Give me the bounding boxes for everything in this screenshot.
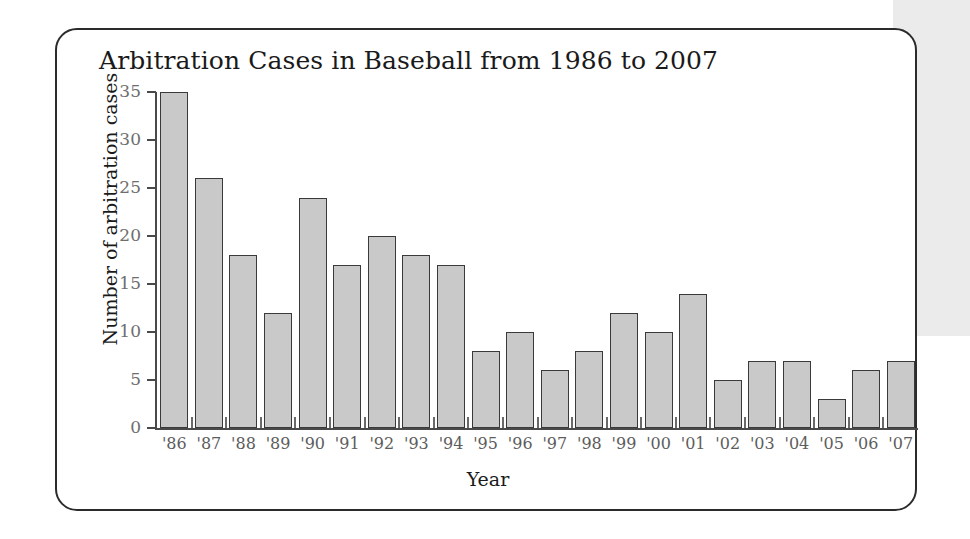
bar[interactable] [437,265,465,428]
x-axis-minor-tick [433,417,435,428]
bar-slot [333,92,361,428]
y-axis-tick [147,283,156,285]
figure-card: Arbitration Cases in Baseball from 1986 … [55,28,917,511]
bar-slot [195,92,223,428]
y-axis-tick [147,235,156,237]
bar[interactable] [402,255,430,428]
bar-slot [610,92,638,428]
bar[interactable] [299,198,327,428]
y-axis-tick [147,331,156,333]
y-axis-tick-label: 15 [101,275,141,292]
bar[interactable] [264,313,292,428]
bar[interactable] [160,92,188,428]
y-axis-tick [147,91,156,93]
y-axis-tick [147,427,156,429]
chart-page: Arbitration Cases in Baseball from 1986 … [0,0,970,539]
bar-slot [679,92,707,428]
x-axis-minor-tick [191,417,193,428]
y-axis-tick-label: 0 [101,419,141,436]
y-axis-tick-label: 30 [101,131,141,148]
x-axis-minor-tick [502,417,504,428]
bar[interactable] [679,294,707,428]
bar[interactable] [645,332,673,428]
y-axis-tick-label: 35 [101,83,141,100]
x-axis-minor-tick [675,417,677,428]
bar-slot [818,92,846,428]
bar[interactable] [818,399,846,428]
bar[interactable] [852,370,880,428]
bar[interactable] [714,380,742,428]
bar-slot [506,92,534,428]
y-axis-tick [147,139,156,141]
y-axis-tick [147,379,156,381]
x-axis-minor-tick [571,417,573,428]
x-axis-minor-tick [882,417,884,428]
bar-slot [368,92,396,428]
x-axis-minor-tick [329,417,331,428]
x-axis-minor-tick [606,417,608,428]
x-axis-minor-tick [848,417,850,428]
bar-slot [852,92,880,428]
bar[interactable] [610,313,638,428]
x-axis-tick-label: '07 [878,434,924,453]
bar[interactable] [195,178,223,428]
bar-slot [299,92,327,428]
bar-slot [229,92,257,428]
y-axis-title: Number of arbitration cases [99,64,121,354]
bar-slot [437,92,465,428]
x-axis-minor-tick [364,417,366,428]
bar-slot [887,92,915,428]
x-axis-minor-tick [640,417,642,428]
y-axis-tick [147,187,156,189]
bar-slot [402,92,430,428]
bar-slot [264,92,292,428]
bar[interactable] [748,361,776,428]
x-axis-minor-tick [744,417,746,428]
bar-slot [714,92,742,428]
y-axis-tick-label: 20 [101,227,141,244]
y-axis-tick-label: 25 [101,179,141,196]
bar-slot [160,92,188,428]
x-axis-minor-tick [398,417,400,428]
bar[interactable] [541,370,569,428]
x-axis-minor-tick [467,417,469,428]
bar[interactable] [368,236,396,428]
plot-area: Number of arbitration cases Year 0510152… [57,30,915,509]
bar-slot [472,92,500,428]
bar-slot [748,92,776,428]
x-axis-minor-tick [294,417,296,428]
x-axis-minor-tick [813,417,815,428]
bar-slot [575,92,603,428]
bar[interactable] [472,351,500,428]
bar-slot [645,92,673,428]
x-axis-title: Year [57,468,919,490]
x-axis-minor-tick [709,417,711,428]
bar[interactable] [575,351,603,428]
x-axis-minor-tick [779,417,781,428]
bar-slot [541,92,569,428]
bar[interactable] [229,255,257,428]
bar[interactable] [783,361,811,428]
bar-slot [783,92,811,428]
x-axis-line [155,428,918,430]
bar[interactable] [506,332,534,428]
x-axis-minor-tick [225,417,227,428]
bars-container [157,92,918,428]
x-axis-minor-tick [537,417,539,428]
y-axis-tick-label: 5 [101,371,141,388]
y-axis-tick-label: 10 [101,323,141,340]
bar[interactable] [333,265,361,428]
x-axis-minor-tick [260,417,262,428]
bar[interactable] [887,361,915,428]
